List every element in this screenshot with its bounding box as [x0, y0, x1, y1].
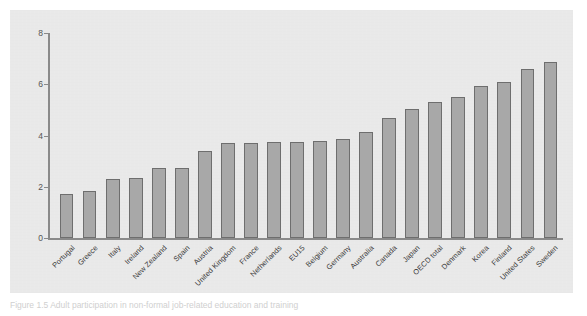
x-tick-label: Spain [172, 244, 191, 263]
y-tick-mark [44, 84, 49, 85]
bar [474, 86, 488, 238]
bar [359, 132, 373, 238]
x-tick-label: Germany [325, 244, 352, 271]
y-tick-mark [44, 238, 49, 239]
bar [521, 69, 535, 238]
bar [198, 151, 212, 238]
bar [129, 178, 143, 238]
bar [428, 102, 442, 238]
x-tick-label: Portugal [50, 244, 75, 269]
y-tick-mark [44, 33, 49, 34]
x-tick-label: Greece [76, 244, 99, 267]
bar [221, 143, 235, 238]
y-tick-mark [44, 136, 49, 137]
figure-container: 02468 PortugalGreeceItalyIrelandNew Zeal… [0, 0, 587, 316]
x-tick-label: Denmark [441, 244, 468, 271]
y-tick-label: 4 [38, 131, 43, 140]
bar [83, 191, 97, 238]
bar [267, 142, 281, 238]
y-tick-label: 0 [38, 234, 43, 243]
plot-area: 02468 PortugalGreeceItalyIrelandNew Zeal… [48, 33, 563, 238]
bar [152, 168, 166, 238]
x-tick-label: Korea [471, 244, 491, 264]
x-tick-label: EU15 [288, 244, 307, 263]
bar [313, 141, 327, 238]
bar [60, 194, 74, 238]
chart-panel: 02468 PortugalGreeceItalyIrelandNew Zeal… [10, 10, 573, 293]
x-tick-label: Sweden [535, 244, 560, 269]
y-tick-mark [44, 187, 49, 188]
figure-caption: Figure 1.5 Adult participation in non-fo… [10, 300, 440, 316]
x-tick-label: Italy [107, 244, 122, 259]
y-tick-label: 6 [38, 80, 43, 89]
bar [497, 82, 511, 238]
bar [244, 143, 258, 238]
bar [405, 109, 419, 238]
bar [382, 118, 396, 238]
bar [290, 142, 304, 238]
y-tick-label: 8 [38, 29, 43, 38]
x-tick-label: Canada [374, 244, 398, 268]
x-axis-line [48, 238, 563, 240]
bar [336, 139, 350, 238]
bar [544, 62, 558, 238]
bar [175, 168, 189, 238]
x-tick-label: Japan [402, 244, 422, 264]
bar [106, 179, 120, 238]
bar [451, 97, 465, 238]
x-tick-label: Australia [349, 244, 375, 270]
y-tick-label: 2 [38, 183, 43, 192]
